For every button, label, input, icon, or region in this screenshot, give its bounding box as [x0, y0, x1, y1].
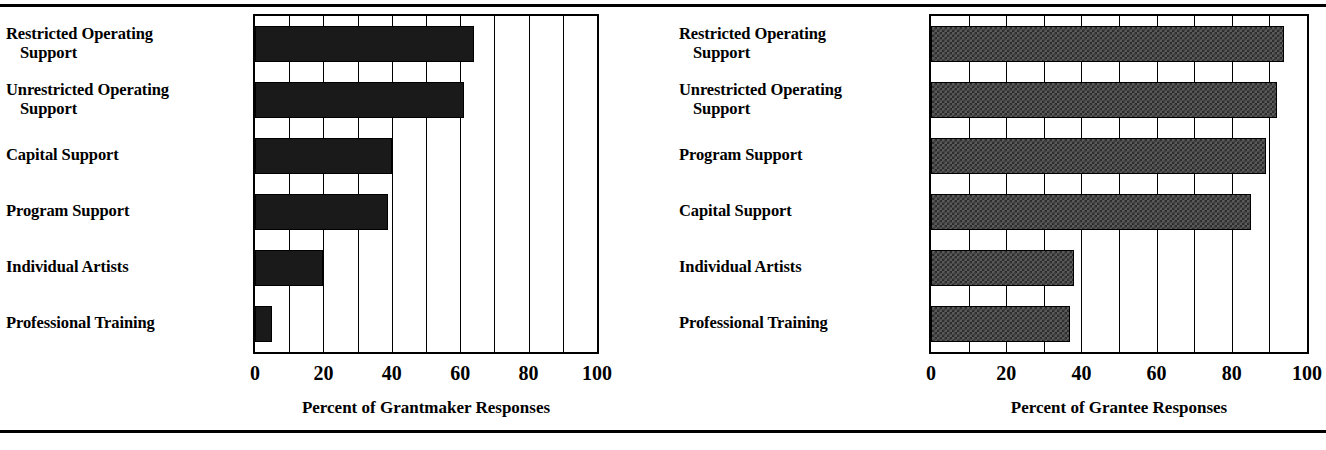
bar	[255, 194, 388, 230]
gridline	[969, 16, 970, 352]
category-label-line: Unrestricted Operating	[6, 80, 169, 99]
category-label-line: Professional Training	[679, 313, 828, 332]
category-label: Program Support	[6, 201, 246, 220]
plot-area-left	[253, 14, 599, 354]
category-label: Professional Training	[6, 313, 246, 332]
gridline	[1269, 16, 1270, 352]
gridline	[1081, 16, 1082, 352]
category-label: Individual Artists	[6, 257, 246, 276]
bar	[931, 26, 1284, 62]
axis-title-right: Percent of Grantee Responses	[929, 398, 1309, 418]
x-tick-label: 100	[1292, 362, 1322, 385]
gridline	[1006, 16, 1007, 352]
category-label: Individual Artists	[679, 257, 929, 276]
gridline	[1157, 16, 1158, 352]
category-label-line: Professional Training	[6, 313, 155, 332]
gridline	[323, 16, 324, 352]
gridline	[460, 16, 461, 352]
x-tick-label: 60	[450, 362, 470, 385]
bar	[931, 194, 1251, 230]
gridline	[1119, 16, 1120, 352]
gridline	[426, 16, 427, 352]
gridline	[1044, 16, 1045, 352]
category-label-line: Support	[6, 43, 246, 62]
category-label: Unrestricted OperatingSupport	[6, 80, 246, 118]
category-label: Program Support	[679, 145, 929, 164]
category-label-line: Restricted Operating	[679, 24, 826, 43]
gridline	[358, 16, 359, 352]
gridline	[1194, 16, 1195, 352]
category-label-line: Capital Support	[679, 201, 792, 220]
x-tick-label: 20	[313, 362, 333, 385]
gridline	[392, 16, 393, 352]
category-label-line: Program Support	[6, 201, 129, 220]
bar	[931, 82, 1277, 118]
category-label-line: Restricted Operating	[6, 24, 153, 43]
category-label-line: Individual Artists	[6, 257, 128, 276]
gridline	[529, 16, 530, 352]
category-label: Unrestricted OperatingSupport	[679, 80, 929, 118]
figure-two-panel-bar-charts: Restricted OperatingSupportUnrestricted …	[0, 0, 1326, 450]
category-label: Capital Support	[6, 145, 246, 164]
category-label-line: Individual Artists	[679, 257, 801, 276]
category-label-line: Unrestricted Operating	[679, 80, 842, 99]
bar	[255, 138, 392, 174]
category-label-line: Support	[679, 99, 929, 118]
category-label-line: Support	[679, 43, 929, 62]
axis-title-left: Percent of Grantmaker Responses	[253, 398, 599, 418]
x-tick-label: 80	[1222, 362, 1242, 385]
category-label: Restricted OperatingSupport	[679, 24, 929, 62]
x-tick-label: 40	[382, 362, 402, 385]
category-labels-left: Restricted OperatingSupportUnrestricted …	[6, 14, 246, 354]
bar	[255, 250, 323, 286]
bar	[931, 250, 1074, 286]
x-tick-label: 80	[519, 362, 539, 385]
x-tick-label: 0	[926, 362, 936, 385]
gridline	[494, 16, 495, 352]
category-label: Capital Support	[679, 201, 929, 220]
panel-grantmaker: Restricted OperatingSupportUnrestricted …	[0, 0, 663, 450]
plot-area-right	[929, 14, 1309, 354]
category-labels-right: Restricted OperatingSupportUnrestricted …	[679, 14, 929, 354]
x-tick-label: 60	[1147, 362, 1167, 385]
x-tick-label: 100	[582, 362, 612, 385]
bar	[255, 82, 464, 118]
gridline	[563, 16, 564, 352]
bar	[255, 26, 474, 62]
bar	[255, 306, 272, 342]
x-tick-label: 20	[996, 362, 1016, 385]
category-label-line: Program Support	[679, 145, 802, 164]
x-tick-label: 40	[1071, 362, 1091, 385]
category-label-line: Capital Support	[6, 145, 119, 164]
gridline	[1232, 16, 1233, 352]
bar	[931, 306, 1070, 342]
gridline	[289, 16, 290, 352]
category-label-line: Support	[6, 99, 246, 118]
category-label: Restricted OperatingSupport	[6, 24, 246, 62]
bar	[931, 138, 1266, 174]
x-tick-label: 0	[250, 362, 260, 385]
category-label: Professional Training	[679, 313, 929, 332]
panel-grantee: Restricted OperatingSupportUnrestricted …	[663, 0, 1326, 450]
